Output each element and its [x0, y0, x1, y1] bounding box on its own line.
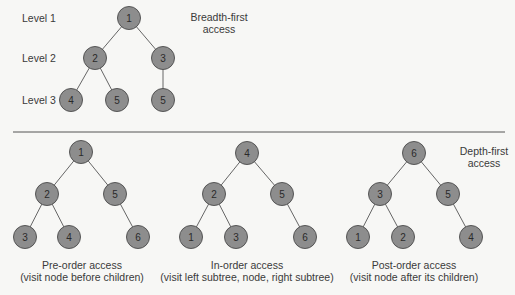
breadth-first-title-line2: access: [203, 23, 236, 35]
breadth-first-tree: 123455: [60, 7, 175, 112]
node-label: 5: [445, 189, 451, 200]
tree-node: 2: [203, 183, 226, 206]
tree-node: 2: [84, 47, 107, 70]
post-order-tree: 635124: [347, 142, 483, 249]
node-label: 2: [211, 189, 217, 200]
tree-node: 6: [127, 226, 150, 249]
tree-node: 3: [152, 47, 175, 70]
depth-first-section: Depth-first access 125346 425136 635124 …: [14, 141, 509, 284]
in-order-caption-line2: (visit left subtree, node, right subtree…: [160, 271, 333, 283]
tree-traversal-diagram: Level 1 Level 2 Level 3 Breadth-first ac…: [0, 0, 515, 295]
tree-node: 6: [294, 226, 317, 249]
node-label: 6: [302, 232, 308, 243]
level-3-label: Level 3: [22, 94, 56, 106]
tree-node: 3: [225, 226, 248, 249]
tree-node: 5: [271, 183, 294, 206]
tree-node: 4: [236, 142, 259, 165]
tree-node: 2: [36, 183, 59, 206]
node-label: 3: [377, 189, 383, 200]
tree-node: 1: [180, 226, 203, 249]
node-label: 2: [92, 53, 98, 64]
depth-first-title-line2: access: [468, 157, 501, 169]
tree-node: 3: [369, 183, 392, 206]
tree-node: 3: [14, 226, 37, 249]
node-label: 4: [244, 148, 250, 159]
node-label: 5: [114, 95, 120, 106]
depth-first-title-line1: Depth-first: [460, 145, 509, 157]
node-label: 6: [411, 148, 417, 159]
breadth-first-title-line1: Breadth-first: [190, 11, 247, 23]
node-label: 5: [160, 95, 166, 106]
node-label: 1: [126, 13, 132, 24]
node-label: 6: [135, 232, 141, 243]
tree-node: 5: [152, 89, 175, 112]
tree-node: 1: [347, 226, 370, 249]
in-order-caption-line1: In-order access: [211, 259, 283, 271]
level-2-label: Level 2: [22, 52, 56, 64]
breadth-first-section: Level 1 Level 2 Level 3 Breadth-first ac…: [22, 7, 248, 112]
pre-order-caption-line1: Pre-order access: [42, 259, 122, 271]
in-order-tree: 425136: [180, 142, 317, 249]
pre-order-tree: 125346: [14, 141, 150, 249]
node-label: 1: [78, 147, 84, 158]
tree-node: 2: [392, 226, 415, 249]
node-label: 3: [233, 232, 239, 243]
node-label: 4: [68, 95, 74, 106]
tree-node: 5: [104, 183, 127, 206]
node-label: 1: [355, 232, 361, 243]
node-label: 3: [160, 53, 166, 64]
tree-node: 5: [437, 183, 460, 206]
node-label: 1: [188, 232, 194, 243]
tree-node: 4: [60, 89, 83, 112]
tree-node: 1: [70, 141, 93, 164]
node-label: 4: [66, 232, 72, 243]
node-label: 5: [279, 189, 285, 200]
node-label: 4: [468, 232, 474, 243]
node-label: 2: [44, 189, 50, 200]
level-1-label: Level 1: [22, 12, 56, 24]
node-label: 2: [400, 232, 406, 243]
post-order-caption-line1: Post-order access: [372, 259, 457, 271]
tree-node: 4: [58, 226, 81, 249]
node-label: 5: [112, 189, 118, 200]
tree-node: 6: [403, 142, 426, 165]
tree-node: 4: [460, 226, 483, 249]
post-order-caption-line2: (visit node after its children): [350, 271, 478, 283]
node-label: 3: [22, 232, 28, 243]
tree-node: 5: [106, 89, 129, 112]
tree-node: 1: [118, 7, 141, 30]
pre-order-caption-line2: (visit node before children): [20, 271, 144, 283]
